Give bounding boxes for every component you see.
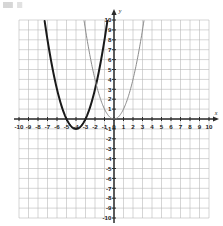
y-tick-label: -8 — [106, 194, 112, 201]
y-tick-label: -3 — [106, 145, 112, 152]
y-tick-label: -1 — [106, 125, 112, 132]
y-tick-label: 8 — [108, 36, 112, 43]
x-tick-label: 1 — [122, 123, 126, 130]
y-tick-label: 9 — [108, 26, 112, 33]
x-tick-label: 5 — [160, 123, 164, 130]
y-tick-label: -7 — [106, 185, 112, 192]
x-tick-label: 7 — [179, 123, 183, 130]
x-tick-label: 10 — [206, 123, 213, 130]
y-tick-label: 10 — [105, 16, 112, 23]
y-tick-label: 3 — [108, 86, 112, 93]
y-tick-label: -9 — [106, 204, 112, 211]
y-axis-label: y — [118, 8, 122, 14]
x-tick-label: 0 — [112, 123, 116, 130]
x-tick-label: 4 — [150, 123, 154, 130]
x-tick-label: -9 — [26, 123, 32, 130]
y-tick-label: 7 — [108, 46, 112, 53]
y-tick-label: -5 — [106, 165, 112, 172]
y-tick-label: -10 — [103, 214, 113, 221]
y-tick-label: 6 — [108, 56, 112, 63]
y-tick-label: -6 — [106, 175, 112, 182]
y-tick-label: 4 — [108, 76, 112, 83]
graph-background — [0, 0, 223, 226]
y-tick-label: -4 — [106, 155, 112, 162]
x-tick-label: 3 — [141, 123, 145, 130]
x-tick-label: 8 — [188, 123, 192, 130]
x-tick-label: -10 — [15, 123, 25, 130]
x-axis-label: x — [214, 110, 218, 116]
y-tick-label: 1 — [108, 105, 112, 112]
x-tick-label: 6 — [169, 123, 173, 130]
y-tick-label: 2 — [108, 95, 112, 102]
x-tick-label: -2 — [92, 123, 98, 130]
graph-figure: -10-9-8-7-6-5-4-3-2-10123456789101098765… — [0, 0, 223, 226]
x-tick-label: 2 — [131, 123, 135, 130]
x-tick-label: -7 — [45, 123, 51, 130]
y-tick-label: -2 — [106, 135, 112, 142]
x-tick-label: 9 — [198, 123, 202, 130]
x-tick-label: -8 — [35, 123, 41, 130]
y-tick-label: 5 — [108, 66, 112, 73]
coordinate-plane-graph: -10-9-8-7-6-5-4-3-2-10123456789101098765… — [0, 0, 223, 226]
x-tick-label: -6 — [54, 123, 60, 130]
